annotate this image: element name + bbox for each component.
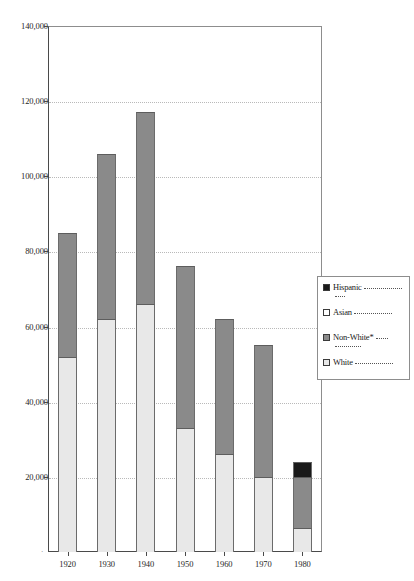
x-axis-tick-label-1960: 1960 (216, 559, 233, 569)
bar-1930[interactable] (97, 154, 116, 552)
legend-label: Non-White* (333, 332, 388, 347)
chart-legend: HispanicAsianNon-White*White (317, 276, 410, 380)
legend-label: White (333, 357, 393, 367)
x-axis-tick-mark (263, 552, 264, 556)
legend-item-nonwhite[interactable]: Non-White* (323, 332, 405, 356)
bar-segment-1940-nonwhite (136, 112, 155, 304)
y-axis-tick-label: 120,000 (2, 96, 48, 106)
legend-swatch-icon (323, 359, 330, 366)
legend-leader-line (355, 363, 393, 364)
x-axis-tick-mark (302, 552, 303, 556)
legend-leader-line-wrap (335, 346, 361, 347)
legend-item-hispanic[interactable]: Hispanic (323, 282, 405, 306)
y-axis-tick-label: 80,000 (2, 246, 48, 256)
bar-segment-1920-white (58, 357, 77, 552)
bar-1970[interactable] (254, 345, 273, 552)
y-axis-tick-label: 40,000 (2, 397, 48, 407)
bar-1940[interactable] (136, 112, 155, 552)
bar-1980[interactable] (293, 462, 312, 552)
bars-layer (48, 26, 322, 552)
y-axis-tick-label: 100,000 (2, 171, 48, 181)
x-axis-tick-label-1980: 1980 (294, 559, 311, 569)
legend-leader-line (364, 288, 402, 289)
x-axis-tick-label-1930: 1930 (98, 559, 115, 569)
legend-leader-line-wrap (335, 296, 345, 297)
bar-segment-1980-hispanic (293, 462, 312, 477)
bar-1950[interactable] (176, 266, 195, 552)
legend-swatch-icon (323, 284, 330, 291)
bar-segment-1930-nonwhite (97, 154, 116, 319)
stacked-bar-chart: 140,000120,000100,00080,00060,00040,0002… (0, 0, 414, 581)
bar-segment-1960-nonwhite (215, 319, 234, 454)
bar-segment-1950-nonwhite (176, 266, 195, 428)
legend-label: Hispanic (333, 282, 402, 297)
bar-segment-1980-nonwhite (293, 477, 312, 528)
y-axis: 140,000120,000100,00080,00060,00040,0002… (0, 0, 48, 581)
x-axis-tick-mark (224, 552, 225, 556)
bar-segment-1960-white (215, 454, 234, 552)
bar-segment-1940-white (136, 304, 155, 552)
legend-item-asian[interactable]: Asian (323, 307, 405, 331)
x-axis-tick-mark (107, 552, 108, 556)
legend-leader-line (354, 313, 392, 314)
x-axis-tick-mark (185, 552, 186, 556)
bar-segment-1970-white (254, 477, 273, 552)
x-axis-tick-label-1940: 1940 (138, 559, 155, 569)
legend-item-white[interactable]: White (323, 357, 405, 381)
bar-segment-1920-nonwhite (58, 233, 77, 357)
x-axis-tick-label-1920: 1920 (59, 559, 76, 569)
bar-1920[interactable] (58, 233, 77, 552)
y-axis-tick-label: 140,000 (2, 21, 48, 31)
legend-label: Asian (333, 307, 392, 317)
origin-marker: · (41, 548, 43, 556)
y-axis-tick-label: 60,000 (2, 322, 48, 332)
bar-segment-1950-white (176, 428, 195, 552)
bar-segment-1980-white (293, 528, 312, 552)
x-axis-tick-label-1970: 1970 (255, 559, 272, 569)
legend-swatch-icon (323, 334, 330, 341)
bar-1960[interactable] (215, 319, 234, 552)
bar-segment-1930-white (97, 319, 116, 552)
x-axis-tick-mark (68, 552, 69, 556)
legend-swatch-icon (323, 309, 330, 316)
x-axis-tick-label-1950: 1950 (177, 559, 194, 569)
x-axis-tick-mark (146, 552, 147, 556)
y-axis-tick-label: 20,000 (2, 472, 48, 482)
bar-segment-1970-nonwhite (254, 345, 273, 477)
legend-leader-line (376, 338, 388, 339)
